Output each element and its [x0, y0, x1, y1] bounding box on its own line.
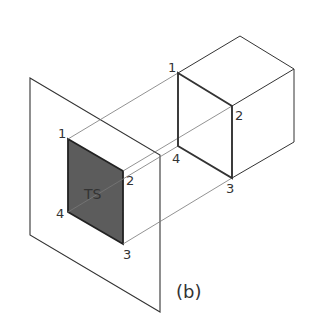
true-size-label: TS: [83, 186, 102, 202]
figure-caption: (b): [176, 281, 201, 302]
proj-label-4: 4: [56, 206, 64, 221]
proj-label-2: 2: [126, 173, 134, 188]
cube-label-2: 2: [235, 108, 243, 123]
diagram-canvas: 1 2 3 4 1 2 3 4 TS (b): [0, 0, 321, 333]
proj-label-3: 3: [123, 247, 131, 262]
cube-label-3: 3: [226, 181, 234, 196]
orthographic-projection-diagram: 1 2 3 4 1 2 3 4 TS (b): [0, 0, 321, 333]
cube: [178, 36, 294, 178]
cube-label-1: 1: [168, 60, 176, 75]
cube-label-4: 4: [172, 151, 180, 166]
proj-label-1: 1: [58, 126, 66, 141]
